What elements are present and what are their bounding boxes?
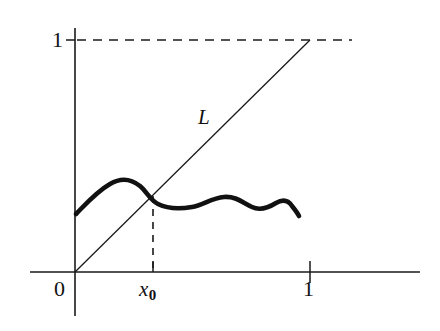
- diagonal-line-L: [75, 40, 310, 272]
- oscillating-curve: [76, 180, 299, 216]
- fixed-point-label-base: x: [139, 277, 148, 301]
- diagonal-line-label: L: [198, 105, 210, 130]
- math-figure: 1 0 1 L x0: [0, 0, 440, 331]
- fixed-point-label-subscript: 0: [149, 287, 157, 303]
- x-axis-label-one: 1: [303, 276, 314, 302]
- y-axis-label-one: 1: [52, 27, 63, 53]
- origin-label: 0: [54, 276, 65, 302]
- figure-canvas: [0, 0, 440, 331]
- fixed-point-label: x0: [139, 277, 156, 304]
